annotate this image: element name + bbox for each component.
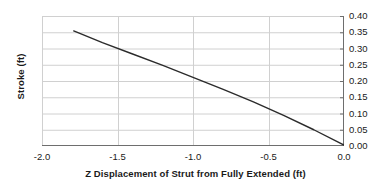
plot-svg [42,16,344,146]
x-axis-title-label: Z Displacement of Strut from Fully Exten… [85,168,306,179]
y-tick-label: 0.05 [349,125,368,135]
x-tick-label: -1.5 [109,151,125,163]
plot-area [42,16,344,146]
y-axis-title-label: Stroke (ft) [16,53,27,99]
x-axis-tick-labels: -2.0-1.5-1.0-0.50.0 [0,151,391,165]
data-series-group [74,31,344,145]
x-tick-label: 0.0 [337,151,350,163]
line-chart: Stroke (ft) 0.000.050.100.150.200.250.30… [0,0,391,190]
y-tick-label: 0.10 [349,109,368,119]
y-tick-label: 0.30 [349,44,368,54]
y-tick-label: 0.35 [349,27,368,37]
y-tick-label: 0.25 [349,60,368,70]
x-tick-label: -2.0 [34,151,50,163]
y-axis-tick-labels: 0.000.050.100.150.200.250.300.350.40 [349,0,391,160]
x-tick-label: -1.0 [185,151,201,163]
y-tick-label: 0.00 [349,141,368,151]
y-tick-label: 0.20 [349,76,368,86]
x-axis-title: Z Displacement of Strut from Fully Exten… [0,168,391,179]
y-tick-label: 0.40 [349,11,368,21]
x-tick-label: -0.5 [260,151,276,163]
y-axis-title: Stroke (ft) [0,0,42,152]
series-line-0 [74,31,344,145]
y-tick-label: 0.15 [349,92,368,102]
